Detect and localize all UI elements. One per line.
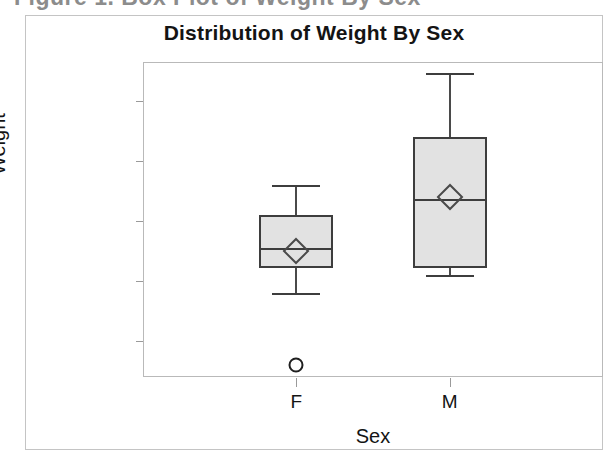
lower-whisker-cap — [426, 275, 474, 277]
y-tick-mark — [136, 341, 143, 342]
x-axis-title: Sex — [143, 425, 603, 448]
x-tick-label-m: M — [442, 391, 458, 413]
lower-whisker-line — [295, 268, 297, 294]
x-tick-label-f: F — [291, 391, 303, 413]
y-tick-mark — [136, 101, 143, 102]
plot-area — [143, 62, 603, 377]
lower-whisker-cap — [272, 293, 320, 295]
y-tick-mark — [136, 221, 143, 222]
scan-edge-artifact: Figure 1. Box Plot of Weight By Sex — [0, 0, 616, 13]
upper-whisker-cap — [426, 73, 474, 75]
y-tick-mark — [136, 281, 143, 282]
upper-whisker-line — [449, 73, 451, 138]
y-axis-title: Weight — [0, 113, 10, 175]
cut-off-caption-text: Figure 1. Box Plot of Weight By Sex — [14, 0, 421, 11]
upper-whisker-line — [295, 185, 297, 215]
outlier-point — [289, 358, 304, 373]
upper-whisker-cap — [272, 185, 320, 187]
x-tick-mark — [296, 378, 297, 387]
x-tick-mark — [450, 378, 451, 387]
y-tick-mark — [136, 161, 143, 162]
chart-title: Distribution of Weight By Sex — [25, 21, 603, 45]
lower-whisker-line — [449, 268, 451, 276]
